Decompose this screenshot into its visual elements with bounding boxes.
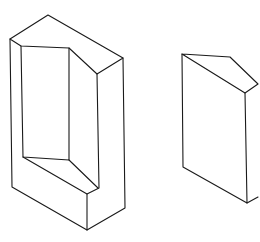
notched-block xyxy=(10,15,125,230)
diagram-canvas xyxy=(0,0,260,242)
wedge-block xyxy=(182,54,258,203)
edge-line xyxy=(10,15,123,74)
edge-line xyxy=(182,54,258,93)
figure-caption xyxy=(4,236,256,242)
edge-line xyxy=(182,54,247,203)
edge-line xyxy=(69,160,98,188)
edge-line xyxy=(23,74,99,194)
edge-line xyxy=(247,197,258,203)
edge-line xyxy=(21,46,69,160)
